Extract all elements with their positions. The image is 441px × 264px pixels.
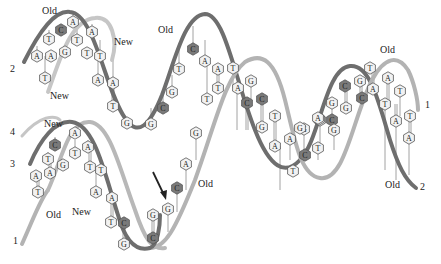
- base-letter: A: [272, 142, 278, 151]
- base-a-hexagon: A: [285, 133, 296, 145]
- base-a-hexagon: A: [383, 72, 394, 84]
- base-c-hexagon: C: [300, 149, 311, 161]
- base-letter: T: [109, 218, 114, 227]
- base-letter: A: [47, 169, 53, 178]
- base-t-hexagon: T: [270, 110, 281, 122]
- base-g-hexagon: G: [341, 102, 352, 114]
- base-letter: C: [342, 82, 347, 91]
- base-letter: T: [75, 36, 80, 45]
- base-letter: G: [124, 119, 130, 128]
- base-g-hexagon: G: [295, 122, 306, 134]
- base-letter: T: [398, 87, 403, 96]
- base-t-hexagon: T: [82, 47, 93, 59]
- base-a-hexagon: A: [107, 192, 118, 204]
- base-letter: A: [315, 114, 321, 123]
- base-c-hexagon: C: [119, 217, 130, 229]
- base-letter: C: [190, 45, 195, 54]
- base-a-hexagon: A: [32, 50, 43, 62]
- number-strand-3-left: 3: [10, 158, 15, 169]
- base-g-hexagon: G: [329, 124, 340, 136]
- base-letter: T: [408, 112, 413, 121]
- base-letter: C: [160, 104, 165, 113]
- label-old-bottom-mid: Old: [198, 178, 213, 189]
- base-letter: G: [62, 48, 68, 57]
- base-letter: T: [73, 149, 78, 158]
- base-letter: T: [273, 112, 278, 121]
- base-a-hexagon: A: [108, 77, 119, 89]
- base-g-hexagon: G: [122, 117, 133, 129]
- base-a-hexagon: A: [233, 82, 244, 94]
- base-letter: T: [177, 65, 182, 74]
- base-letter: T: [205, 95, 210, 104]
- base-c-hexagon: C: [188, 43, 199, 55]
- base-t-hexagon: T: [380, 98, 391, 110]
- label-new-left-1: New: [50, 90, 70, 101]
- base-letter: C: [52, 141, 57, 150]
- base-letter: A: [109, 194, 115, 203]
- base-letter: G: [259, 123, 265, 132]
- base-letter: G: [357, 77, 363, 86]
- base-letter: G: [297, 124, 303, 133]
- base-a-hexagon: A: [31, 170, 42, 182]
- diagram-canvas: ACTTGAAATTTAATGGCGTCAATTTAGCCTGAAGCTATGA…: [0, 0, 441, 264]
- base-letter: A: [287, 135, 293, 144]
- number-strand-2-left: 2: [10, 63, 15, 74]
- base-a-hexagon: A: [87, 26, 98, 38]
- base-letter: T: [36, 188, 41, 197]
- base-a-hexagon: A: [270, 140, 281, 152]
- base-t-hexagon: T: [33, 186, 44, 198]
- base-letter: G: [331, 126, 337, 135]
- base-letter: T: [316, 144, 321, 153]
- base-letter: A: [72, 129, 78, 138]
- base-letter: A: [95, 76, 101, 85]
- label-old-left-bottom: Old: [46, 209, 61, 220]
- base-t-hexagon: T: [43, 153, 54, 165]
- base-letter: T: [291, 167, 296, 176]
- base-letter: C: [174, 184, 179, 193]
- base-c-hexagon: C: [50, 139, 61, 151]
- base-letter: T: [46, 155, 51, 164]
- base-letter: G: [248, 77, 254, 86]
- base-g-hexagon: G: [163, 203, 174, 215]
- base-letter: A: [70, 18, 76, 27]
- base-letter: C: [359, 94, 364, 103]
- base-t-hexagon: T: [228, 62, 239, 74]
- base-c-hexagon: C: [172, 182, 183, 194]
- base-t-hexagon: T: [213, 82, 224, 94]
- base-g-hexagon: G: [191, 127, 202, 139]
- base-g-hexagon: G: [167, 86, 178, 98]
- base-t-hexagon: T: [95, 50, 106, 62]
- base-letter: A: [183, 160, 189, 169]
- base-a-hexagon: A: [45, 167, 56, 179]
- base-a-hexagon: A: [68, 16, 79, 28]
- base-letter: G: [329, 99, 335, 108]
- base-c-hexagon: C: [158, 102, 169, 114]
- base-a-hexagon: A: [91, 186, 102, 198]
- base-t-hexagon: T: [108, 100, 119, 112]
- label-old-top-mid: Old: [158, 24, 173, 35]
- base-t-hexagon: T: [85, 161, 96, 173]
- base-c-hexagon: C: [56, 24, 67, 36]
- base-letter: C: [259, 95, 264, 104]
- base-t-hexagon: T: [72, 34, 83, 46]
- base-t-hexagon: T: [288, 165, 299, 177]
- base-letter: G: [150, 211, 156, 220]
- base-t-hexagon: T: [365, 62, 376, 74]
- base-letter: A: [215, 65, 221, 74]
- base-letter: T: [368, 64, 373, 73]
- base-letter: C: [121, 219, 126, 228]
- base-c-hexagon: C: [327, 114, 338, 126]
- label-new-top-1: New: [114, 36, 134, 47]
- base-a-hexagon: A: [181, 158, 192, 170]
- base-c-hexagon: C: [340, 80, 351, 92]
- base-g-hexagon: G: [146, 118, 157, 130]
- base-a-hexagon: A: [200, 55, 211, 67]
- base-t-hexagon: T: [313, 142, 324, 154]
- base-c-hexagon: C: [242, 97, 253, 109]
- base-letter: T: [216, 84, 221, 93]
- number-strand-1-left: 1: [13, 235, 18, 246]
- base-letter: A: [393, 117, 399, 126]
- label-old-top-left: Old: [42, 5, 57, 16]
- base-a-hexagon: A: [93, 74, 104, 86]
- base-t-hexagon: T: [174, 63, 185, 75]
